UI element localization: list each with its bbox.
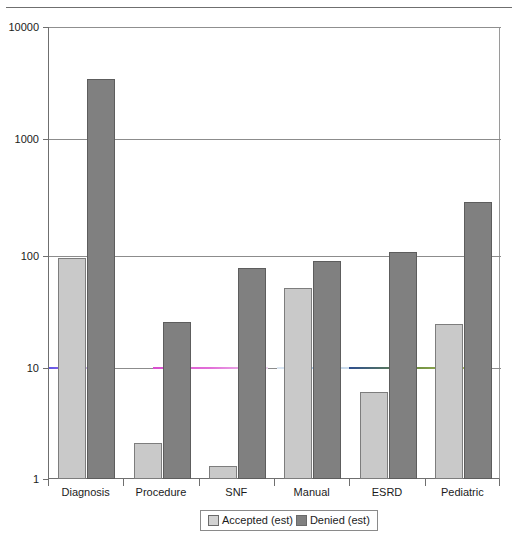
x-tick-procedure — [123, 479, 124, 486]
plot-area — [48, 27, 500, 479]
y-tick-label-1000: 1000 — [15, 134, 39, 145]
x-axis-label-diagnosis: Diagnosis — [62, 486, 110, 499]
x-tick-snf — [199, 479, 200, 486]
x-tick-diagnosis — [48, 479, 49, 486]
bar-diagnosis-accepted — [58, 258, 86, 480]
bar-manual-denied — [313, 261, 341, 479]
x-axis-label-procedure: Procedure — [136, 486, 187, 499]
x-tick-esrd — [349, 479, 350, 486]
y-axis-labels: 10000 1000 100 10 1 — [0, 0, 48, 544]
y-tick-label-10: 10 — [27, 363, 39, 374]
bar-esrd-denied — [389, 252, 417, 479]
x-tick-end — [499, 479, 500, 486]
bar-procedure-denied — [163, 322, 191, 479]
bar-pediatric-accepted — [435, 324, 463, 479]
bar-manual-accepted — [284, 288, 312, 479]
legend-label-denied: Denied (est) — [310, 514, 370, 527]
x-axis-label-pediatric: Pediatric — [441, 486, 484, 499]
bar-diagnosis-denied — [87, 79, 115, 479]
x-tick-manual — [274, 479, 275, 486]
bar-snf-accepted — [209, 466, 237, 479]
x-axis-label-esrd: ESRD — [372, 486, 403, 499]
bar-esrd-accepted — [360, 392, 388, 479]
bar-chart-figure: 10000 1000 100 10 1 DiagnosisProcedureSN… — [0, 0, 518, 544]
bar-snf-denied — [238, 268, 266, 479]
bar-procedure-accepted — [134, 443, 162, 479]
y-tick-label-1: 1 — [33, 474, 39, 485]
legend-label-accepted: Accepted (est) — [222, 514, 293, 527]
y-tick-label-100: 100 — [21, 251, 39, 262]
legend-item-accepted: Accepted (est) — [208, 514, 293, 527]
x-axis-label-snf: SNF — [225, 486, 247, 499]
legend-swatch-accepted-icon — [208, 515, 219, 526]
bar-group-container — [49, 27, 501, 479]
page-top-rule — [6, 7, 512, 8]
y-tick-label-10000: 10000 — [8, 22, 39, 33]
x-axis-labels: DiagnosisProcedureSNFManualESRDPediatric — [48, 486, 500, 504]
x-axis-label-manual: Manual — [294, 486, 330, 499]
x-tick-pediatric — [425, 479, 426, 486]
chart-legend: Accepted (est) Denied (est) — [200, 510, 378, 531]
legend-swatch-denied-icon — [296, 515, 307, 526]
bar-pediatric-denied — [464, 202, 492, 479]
legend-item-denied: Denied (est) — [296, 514, 370, 527]
